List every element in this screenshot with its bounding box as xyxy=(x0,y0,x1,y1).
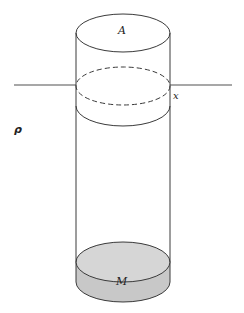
displacement-label: x xyxy=(173,90,179,101)
area-label: A xyxy=(118,24,126,37)
density-label: ρ xyxy=(14,123,22,136)
displaced-level-arc xyxy=(76,106,170,126)
equilibrium-level-dashed xyxy=(76,67,170,105)
mass-label: M xyxy=(116,275,127,288)
floating-cylinder-diagram xyxy=(0,0,244,313)
